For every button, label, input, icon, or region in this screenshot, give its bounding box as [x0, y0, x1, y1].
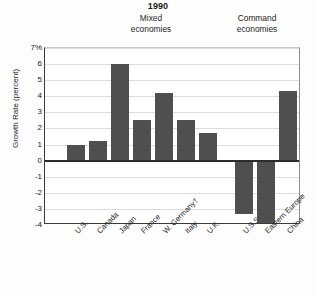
chart-figure: 1990 Mixed economies Command economies G… [0, 0, 316, 296]
y-axis-tick-label: 0 [0, 155, 42, 164]
chart-title: 1990 [0, 1, 316, 11]
y-axis-tick-label: 5 [0, 75, 42, 84]
zero-baseline [45, 160, 299, 162]
bar [279, 91, 297, 160]
bar [257, 161, 275, 224]
gridline [45, 48, 299, 49]
group-label-command-line2: economies [212, 24, 302, 35]
y-axis-tick-label: 1 [0, 139, 42, 148]
y-axis-tick-label: 2 [0, 123, 42, 132]
y-axis-tick-label: -2 [0, 187, 42, 196]
plot-area [44, 47, 300, 224]
y-axis-tick-label: -4 [0, 220, 42, 229]
group-label-mixed: Mixed economies [108, 13, 194, 34]
bar [155, 93, 173, 161]
y-axis-tick-label: 3 [0, 107, 42, 116]
bar [177, 120, 195, 160]
y-axis-tick-label: -1 [0, 171, 42, 180]
bar [235, 161, 253, 214]
gridline [45, 80, 299, 81]
y-axis-tick-label: 4 [0, 91, 42, 100]
gridline [45, 64, 299, 65]
y-axis-tick-label: 6 [0, 59, 42, 68]
group-label-command-line1: Command [212, 13, 302, 24]
group-label-command: Command economies [212, 13, 302, 34]
bar [111, 64, 129, 161]
bar [133, 120, 151, 160]
group-label-mixed-line1: Mixed [108, 13, 194, 24]
y-axis-tick-label: -3 [0, 203, 42, 212]
y-axis-ticks: 7%6543210-1-2-3-4 [0, 47, 42, 224]
bar [67, 145, 85, 161]
group-label-mixed-line2: economies [108, 24, 194, 35]
bar [199, 133, 217, 160]
bar [89, 141, 107, 160]
y-axis-tick-label: 7% [0, 43, 42, 52]
